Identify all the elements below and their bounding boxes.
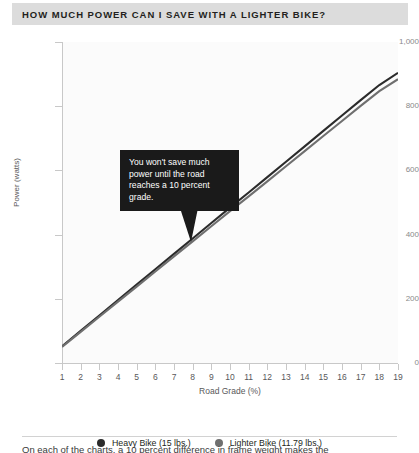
x-axis-tick (99, 364, 100, 370)
x-axis-tick-label: 14 (295, 372, 315, 382)
chart-title-band: HOW MUCH POWER CAN I SAVE WITH A LIGHTER… (12, 3, 408, 25)
x-axis-tick (193, 364, 194, 370)
x-axis-tick-label: 12 (257, 372, 277, 382)
y-axis-tick (55, 299, 62, 300)
y-axis-tick (55, 363, 62, 364)
callout-tail-icon (178, 208, 238, 244)
x-axis-tick-label: 9 (201, 372, 221, 382)
x-axis-tick-label: 3 (89, 372, 109, 382)
x-axis-tick (249, 364, 250, 370)
x-axis-tick (361, 364, 362, 370)
x-axis-tick (211, 364, 212, 370)
chart-figure: 02004006008001,000 123456789101112131415… (0, 28, 419, 428)
x-axis-tick (81, 364, 82, 370)
y-axis-tick (55, 235, 62, 236)
x-axis-tick (286, 364, 287, 370)
x-axis-tick-label: 5 (127, 372, 147, 382)
x-axis-tick-label: 6 (145, 372, 165, 382)
x-axis-tick-label: 18 (369, 372, 389, 382)
x-axis-tick-label: 17 (351, 372, 371, 382)
footer-divider (22, 436, 397, 437)
x-axis-tick-label: 2 (71, 372, 91, 382)
x-axis-tick (342, 364, 343, 370)
x-axis-tick-label: 4 (108, 372, 128, 382)
x-axis-tick (155, 364, 156, 370)
chart-annotation-callout: You won't save much power until the road… (120, 150, 239, 211)
x-axis-tick (137, 364, 138, 370)
x-axis-tick-label: 15 (313, 372, 333, 382)
y-axis-label: Power (watts) (12, 123, 21, 243)
x-axis-label: Road Grade (%) (62, 386, 398, 396)
x-axis-tick (305, 364, 306, 370)
x-axis-tick (118, 364, 119, 370)
x-axis-tick-label: 11 (239, 372, 259, 382)
page-title: HOW MUCH POWER CAN I SAVE WITH A LIGHTER… (12, 9, 326, 20)
x-axis-tick (230, 364, 231, 370)
x-axis-tick-label: 16 (332, 372, 352, 382)
x-axis-tick (174, 364, 175, 370)
footer-body-text: On each of the charts, a 10 percent diff… (22, 443, 407, 453)
x-axis-tick (267, 364, 268, 370)
x-axis-tick (323, 364, 324, 370)
x-axis-tick-label: 1 (52, 372, 72, 382)
x-axis-tick-label: 10 (220, 372, 240, 382)
x-axis-tick (62, 364, 63, 370)
y-axis-tick (55, 42, 62, 43)
x-axis-tick-label: 13 (276, 372, 296, 382)
x-axis-tick (379, 364, 380, 370)
y-axis-tick (55, 106, 62, 107)
callout-text: You won't save much power until the road… (129, 157, 210, 202)
x-axis-tick-label: 8 (183, 372, 203, 382)
y-axis-tick (55, 170, 62, 171)
x-axis-tick-label: 7 (164, 372, 184, 382)
x-axis-tick (398, 364, 399, 370)
x-axis-tick-label: 19 (388, 372, 408, 382)
